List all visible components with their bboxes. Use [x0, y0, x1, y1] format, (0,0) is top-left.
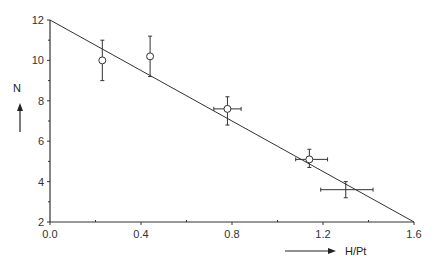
- y-tick-label: 4: [38, 176, 44, 188]
- circle-marker: [99, 57, 106, 64]
- fit-line: [50, 20, 414, 222]
- y-tick-label: 8: [38, 95, 44, 107]
- right-arrow-icon: [285, 248, 336, 254]
- data-point: [147, 36, 154, 76]
- circle-marker: [147, 53, 154, 60]
- x-tick-label: 1.2: [315, 228, 330, 240]
- x-tick-label: 0.8: [224, 228, 239, 240]
- y-tick-label: 2: [38, 216, 44, 228]
- axes: 246810120.00.40.81.21.6: [32, 14, 422, 240]
- data-point: [99, 40, 106, 80]
- x-tick-label: 0.4: [133, 228, 148, 240]
- y-tick-label: 10: [32, 54, 44, 66]
- x-axis-label: H/Pt: [345, 245, 366, 257]
- up-arrow-icon: [17, 103, 23, 132]
- data-point: [214, 97, 241, 125]
- x-tick-label: 0.0: [42, 228, 57, 240]
- circle-marker: [306, 156, 313, 163]
- x-tick-label: 1.6: [406, 228, 421, 240]
- y-tick-label: 12: [32, 14, 44, 26]
- y-tick-label: 6: [38, 135, 44, 147]
- chart: 246810120.00.40.81.21.6NH/Pt: [0, 0, 433, 269]
- data-points: [99, 36, 373, 198]
- y-axis-label: N: [13, 82, 21, 94]
- circle-marker: [224, 105, 231, 112]
